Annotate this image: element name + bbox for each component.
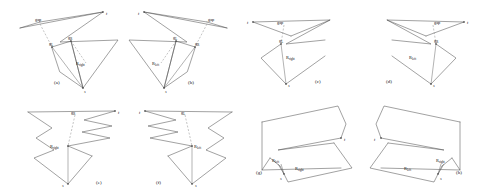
label-Rleft: Rleft — [272, 158, 279, 164]
vertex-label-t: t — [247, 20, 249, 25]
panel-caption-f: (f) — [156, 180, 161, 185]
vertex-label-s: s — [165, 89, 167, 94]
label-Rright: Rright — [436, 158, 445, 164]
panel-d: t s gap gR Rleft (d) — [356, 0, 477, 95]
vertex-label-s: s — [195, 183, 197, 188]
label-Rright: Rright — [286, 55, 295, 61]
vertex-label-t: t — [138, 11, 140, 16]
panel-caption-a: (a) — [54, 80, 60, 85]
vertex-label-s: s — [288, 83, 290, 88]
panel-f: t s gL Rleft (f) — [128, 96, 248, 189]
label-Rleft: Rleft — [194, 144, 201, 150]
vertex-label-s: s — [440, 176, 442, 181]
label-gap: gap — [434, 20, 440, 25]
vertex-label-s: s — [84, 89, 86, 94]
label-gR: gR — [434, 38, 439, 44]
label-gL: gL — [49, 41, 53, 47]
panel-c: t s gap gL Rright (c) — [243, 0, 361, 95]
label-gR: gR — [71, 110, 76, 116]
label-Rright: Rright — [295, 166, 304, 172]
panel-caption-h: (h) — [456, 170, 462, 175]
vertex-label-s: s — [280, 176, 282, 181]
label-gR: gR — [195, 41, 200, 47]
vertex-label-t: t — [467, 20, 469, 25]
label-Rleft: Rleft — [152, 61, 159, 67]
label-gap: gap — [35, 17, 41, 22]
label-gL: gL — [181, 110, 185, 116]
label-Rright: Rright — [50, 144, 59, 150]
panel-caption-c: (c) — [315, 79, 321, 84]
label-gap: gap — [277, 20, 283, 25]
label-gR: gR — [68, 35, 73, 41]
label-gap: gap — [208, 17, 214, 22]
panel-e: t s gR Rright (e) — [12, 96, 132, 189]
panel-caption-b: (b) — [188, 80, 194, 85]
panel-b: t s gap gR gL Rleft (b) — [122, 0, 247, 95]
panel-caption-e: (e) — [96, 180, 102, 185]
vertex-label-s: s — [62, 183, 64, 188]
figure-canvas: t s gap gL gR Rright (a) t s gap gR gL R… — [0, 0, 477, 189]
vertex-label-s: s — [433, 83, 435, 88]
label-gL: gL — [173, 35, 177, 41]
label-gL: gL — [279, 38, 283, 44]
panel-caption-g: (g) — [256, 170, 262, 175]
panel-g: t s Rleft Rright (g) — [248, 96, 366, 189]
panel-h: t s Rright Rleft (h) — [364, 96, 477, 189]
vertex-label-t: t — [374, 137, 376, 142]
panel-a: t s gap gL gR Rright (a) — [0, 0, 125, 95]
vertex-label-t: t — [344, 137, 346, 142]
vertex-label-t: t — [106, 11, 108, 16]
vertex-label-t: t — [118, 110, 120, 115]
label-Rleft: Rleft — [404, 166, 411, 172]
vertex-label-t: t — [139, 110, 141, 115]
panel-caption-d: (d) — [386, 79, 392, 84]
label-Rleft: Rleft — [409, 55, 416, 61]
